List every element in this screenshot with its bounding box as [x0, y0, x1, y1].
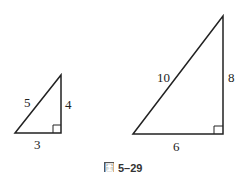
large-horizontal-leg-label: 6: [173, 139, 180, 154]
large-hypotenuse-label: 10: [157, 70, 170, 85]
figure-caption: 圖 5–29: [104, 162, 142, 174]
small-horizontal-leg-label: 3: [34, 137, 41, 152]
small-vertical-leg-label: 4: [65, 97, 72, 112]
right-angle-marker: [53, 125, 61, 133]
large-triangle: 10 8 6: [133, 16, 235, 154]
small-hypotenuse-label: 5: [24, 95, 31, 110]
right-angle-marker: [214, 126, 223, 134]
similar-triangles-figure: 5 4 3 10 8 6 圖 5–29: [0, 0, 249, 178]
large-vertical-leg-label: 8: [228, 70, 235, 85]
small-triangle: 5 4 3: [15, 75, 72, 152]
caption-number: 5–29: [118, 162, 142, 174]
caption-prefix: 圖: [105, 163, 114, 173]
